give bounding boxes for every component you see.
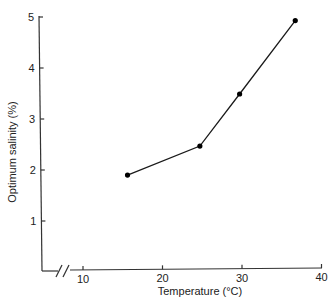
y-tick-label: 2: [30, 164, 36, 176]
x-tick-label: 30: [236, 272, 248, 284]
data-point: [293, 18, 298, 23]
data-series: [125, 18, 298, 178]
y-ticks: 12345: [28, 11, 46, 227]
x-axis-segment-right: [70, 268, 322, 270]
x-axis-label: Temperature (°C): [158, 285, 242, 297]
data-point: [237, 91, 242, 96]
y-tick-label: 4: [28, 62, 34, 74]
x-ticks: 10203040: [77, 264, 328, 285]
y-tick-label: 1: [30, 215, 36, 227]
y-tick-label: 5: [28, 11, 34, 23]
line-chart: 10203040 12345 Temperature (°C) Optimum …: [0, 0, 336, 304]
data-point: [197, 143, 202, 148]
x-tick-label: 40: [315, 271, 327, 283]
x-tick-label: 20: [156, 272, 168, 284]
y-axis: [39, 16, 42, 271]
y-axis-label: Optimum salinity (%): [6, 101, 18, 202]
series-line: [128, 21, 296, 176]
data-point: [125, 173, 130, 178]
y-tick-label: 3: [29, 113, 35, 125]
x-tick-label: 10: [77, 273, 89, 285]
